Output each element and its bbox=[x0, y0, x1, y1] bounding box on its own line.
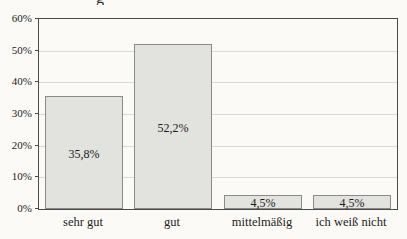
scanned-bar-chart-page: g 0%10%20%30%40%50%60% 35,8%52,2%4,5%4,5… bbox=[0, 0, 407, 239]
x-axis: sehr gutgutmittelmäßigich weiß nicht bbox=[0, 0, 407, 239]
x-category-label: ich weiß nicht bbox=[296, 215, 406, 229]
